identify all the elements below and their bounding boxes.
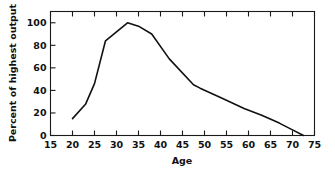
x-tick-label: 25 [88,139,101,150]
x-tick-label: 40 [154,139,168,150]
x-tick-label: 30 [110,139,124,150]
x-tick-label: 20 [66,139,80,150]
x-axis-title: Age [172,155,193,166]
y-tick-label: 40 [33,85,47,96]
y-tick-label: 60 [33,62,47,73]
y-tick-label: 100 [27,17,47,28]
x-axis-top-ticks [51,12,315,17]
y-axis-title: Percent of highest output [7,3,18,142]
figure-container: 15202530354045505560657075 020406080100 … [0,0,335,171]
y-tick-label: 0 [40,130,47,141]
x-tick-label: 45 [176,139,189,150]
line-chart: 15202530354045505560657075 020406080100 … [0,0,335,171]
x-tick-label: 60 [242,139,256,150]
y-tick-label: 80 [33,40,47,51]
y-axis-tick-labels: 020406080100 [27,17,47,141]
x-tick-label: 65 [264,139,277,150]
y-axis-ticks [51,23,56,136]
x-tick-label: 35 [132,139,145,150]
x-tick-label: 55 [220,139,233,150]
x-tick-label: 50 [198,139,212,150]
x-axis-tick-labels: 15202530354045505560657075 [44,139,321,150]
x-tick-label: 70 [286,139,300,150]
data-series-line [73,23,304,136]
x-tick-label: 75 [308,139,321,150]
y-tick-label: 20 [33,107,47,118]
x-axis-ticks [51,131,315,136]
